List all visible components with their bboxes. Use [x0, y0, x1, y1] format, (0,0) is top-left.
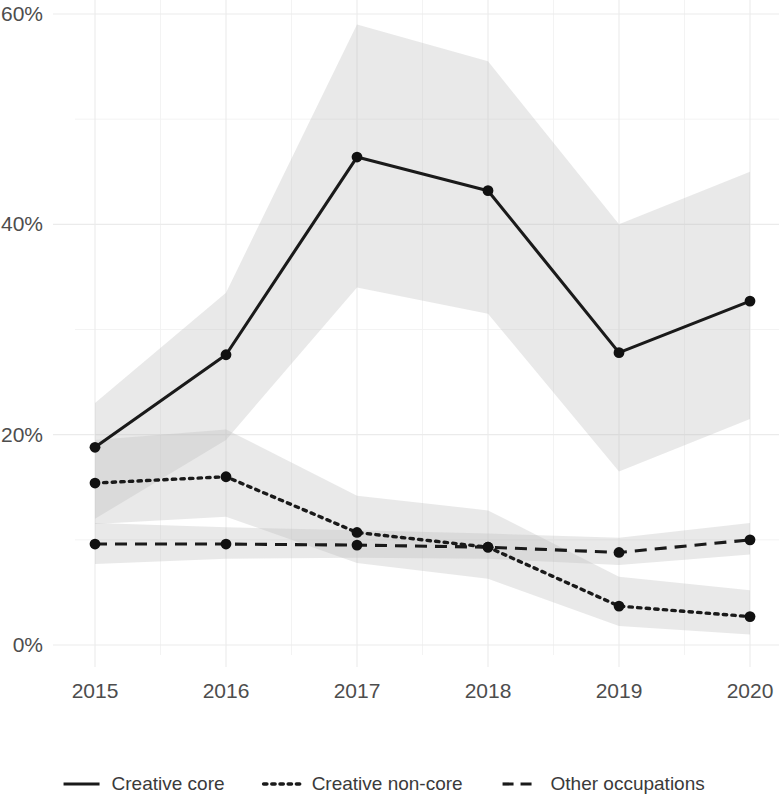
- data-point: [352, 152, 363, 163]
- data-point: [745, 534, 756, 545]
- data-point: [221, 349, 232, 360]
- x-axis-label-2015: 2015: [72, 679, 119, 702]
- y-axis-label-40: 40%: [1, 212, 43, 235]
- x-axis-label-2019: 2019: [596, 679, 643, 702]
- data-point: [614, 547, 625, 558]
- data-point: [614, 347, 625, 358]
- data-point: [90, 442, 101, 453]
- x-axis-label-2020: 2020: [727, 679, 774, 702]
- data-point: [483, 185, 494, 196]
- data-point: [352, 527, 363, 538]
- x-axis-label-2017: 2017: [334, 679, 381, 702]
- line-chart: 60%40%20%0% 201520162017201820192020 Cre…: [0, 0, 779, 808]
- x-axis-label-2016: 2016: [203, 679, 250, 702]
- x-axis-label-2018: 2018: [465, 679, 512, 702]
- data-point: [221, 539, 232, 550]
- y-axis-label-0: 0%: [13, 633, 43, 656]
- data-point: [745, 611, 756, 622]
- data-point: [90, 539, 101, 550]
- chart-container: 60%40%20%0% 201520162017201820192020 Cre…: [0, 0, 779, 808]
- data-point: [745, 296, 756, 307]
- data-point: [614, 601, 625, 612]
- data-point: [221, 471, 232, 482]
- data-point: [90, 478, 101, 489]
- legend-label-0: Creative core: [112, 773, 225, 794]
- y-axis-label-20: 20%: [1, 423, 43, 446]
- y-axis-label-60: 60%: [1, 2, 43, 25]
- data-point: [352, 540, 363, 551]
- chart-legend: Creative coreCreative non-coreOther occu…: [64, 773, 705, 794]
- legend-label-2: Other occupations: [551, 773, 705, 794]
- legend-label-1: Creative non-core: [312, 773, 463, 794]
- data-point: [483, 542, 494, 553]
